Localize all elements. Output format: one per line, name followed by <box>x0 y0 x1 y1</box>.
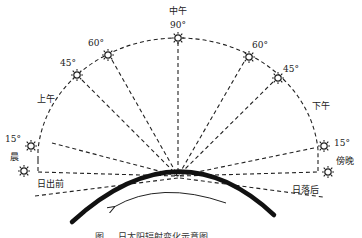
earth-surface-arc <box>72 172 274 222</box>
label-early-morning: 晨 <box>10 153 19 162</box>
rotation-arrow <box>114 192 226 207</box>
label-noon-angle: 90° <box>170 21 186 30</box>
label-left-60: 60° <box>88 39 104 48</box>
label-afternoon: 下午 <box>312 102 330 111</box>
sun-icon-before-sunrise <box>18 165 30 177</box>
label-evening: 傍晚 <box>336 157 354 166</box>
label-noon: 中午 <box>169 7 187 16</box>
label-before-sunrise: 日出前 <box>37 180 64 189</box>
sun-icon-morning-45 <box>71 69 83 81</box>
label-morning: 上午 <box>37 95 55 104</box>
label-left-15: 15° <box>5 135 21 144</box>
sun-icon-after-sunset <box>322 166 334 178</box>
label-left-45: 45° <box>60 59 76 68</box>
label-right-60: 60° <box>252 41 268 50</box>
sun-icon-afternoon-45 <box>272 72 284 84</box>
sun-icon-evening-15 <box>318 140 330 152</box>
sun-angle-diagram <box>0 0 362 238</box>
sun-icon-morning-60 <box>102 49 114 61</box>
sun-icon-morning-15 <box>25 140 37 152</box>
label-after-sunset: 日落后 <box>292 186 319 195</box>
figure-caption: 图 ... 日太阳辐射变化示意图 <box>95 233 208 238</box>
label-right-15: 15° <box>334 139 350 148</box>
label-right-45: 45° <box>283 65 299 74</box>
sun-icon-afternoon-60 <box>243 51 255 63</box>
